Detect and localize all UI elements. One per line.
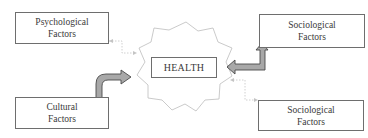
- node-label-line2: Factors: [297, 116, 325, 128]
- socio-bottom-connector-icon: [233, 80, 256, 100]
- node-label-line2: Factors: [298, 31, 326, 43]
- node-label-line1: Sociological: [288, 19, 336, 31]
- cultural-factors-box: Cultural Factors: [15, 97, 109, 129]
- diagram-canvas: Psychological Factors Sociological Facto…: [0, 0, 368, 138]
- center-label: HEALTH: [164, 62, 204, 74]
- curved-block-arrow-icon: [96, 70, 131, 98]
- sociological-factors-top-box: Sociological Factors: [259, 14, 365, 48]
- arrowhead-icon: [109, 39, 113, 43]
- arrowhead-icon: [133, 51, 137, 55]
- node-label-line1: Psychological: [35, 16, 88, 28]
- node-label-line2: Factors: [48, 113, 76, 125]
- sociological-factors-bottom-box: Sociological Factors: [258, 100, 364, 131]
- node-label-line1: Cultural: [46, 101, 77, 113]
- node-label-line1: Sociological: [287, 104, 335, 116]
- node-label-line2: Factors: [48, 28, 76, 40]
- health-center-box: HEALTH: [151, 57, 217, 78]
- arrowhead-icon: [230, 78, 234, 82]
- psychological-factors-box: Psychological Factors: [15, 12, 109, 44]
